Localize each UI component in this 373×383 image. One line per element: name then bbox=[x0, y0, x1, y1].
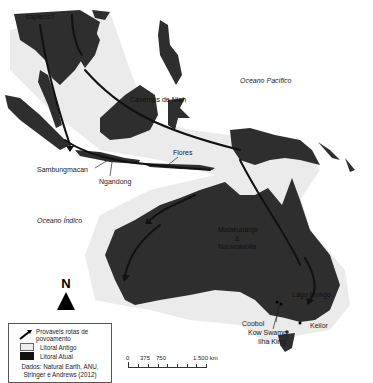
north-arrow: N bbox=[54, 277, 78, 310]
legend-item-current-coast: Litoral Atual bbox=[12, 352, 108, 360]
north-letter: N bbox=[54, 277, 78, 290]
label-lago-mungo: Lago Mungo bbox=[292, 291, 331, 298]
label-nauwalabila: Nauwalabila bbox=[218, 243, 256, 250]
scale-label-750: 750 bbox=[156, 355, 166, 361]
label-and: & bbox=[235, 235, 240, 242]
label-ilha-king: Ilha King bbox=[258, 338, 285, 345]
label-pacific-ocean: Oceano Pacífico bbox=[240, 77, 291, 84]
legend-old-coast-label: Litoral Antigo bbox=[40, 344, 76, 351]
scale-bar: 0 375 750 1.500 km bbox=[128, 355, 218, 373]
label-coobol: Coobol bbox=[242, 320, 264, 327]
scale-label-0: 0 bbox=[126, 355, 129, 361]
label-indian-ocean: Oceano Índico bbox=[37, 217, 82, 224]
label-sapiens: sapiens? bbox=[26, 13, 54, 20]
label-keilor: Keilor bbox=[310, 322, 328, 329]
legend-current-coast-label: Litoral Atual bbox=[40, 353, 73, 360]
north-arrow-icon bbox=[57, 292, 75, 310]
current-coast-swatch bbox=[20, 352, 34, 360]
route-arrow-icon bbox=[18, 330, 32, 340]
scale-ticks bbox=[128, 362, 207, 368]
old-coast-swatch bbox=[20, 343, 34, 351]
legend-routes-label: Prováveis rotas de povoamento bbox=[36, 328, 108, 342]
legend-source: Dados: Natural Earth, ANU, Stringer e An… bbox=[12, 363, 108, 379]
label-ngandong: Ngandong bbox=[99, 178, 131, 185]
scale-label-375: 375 bbox=[140, 355, 150, 361]
label-niah: Cavernas de Niah bbox=[130, 96, 186, 103]
label-kow-swamp: Kow Swamp bbox=[248, 329, 287, 336]
label-malakunanja: Malakunanja bbox=[218, 226, 258, 233]
legend-item-routes: Prováveis rotas de povoamento bbox=[12, 328, 108, 342]
label-flores: Flores bbox=[173, 149, 192, 156]
legend: Prováveis rotas de povoamento Litoral An… bbox=[8, 323, 112, 383]
legend-item-old-coast: Litoral Antigo bbox=[12, 343, 108, 351]
scale-label-1500: 1.500 km bbox=[193, 355, 218, 361]
label-sambungmacan: Sambungmacan bbox=[37, 166, 88, 173]
